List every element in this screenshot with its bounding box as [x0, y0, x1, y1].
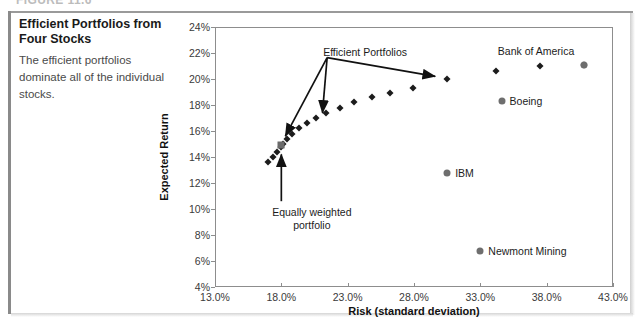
figure-frame-left [8, 11, 11, 314]
frontier-point [323, 109, 330, 116]
frontier-point [409, 85, 416, 92]
figure-container: FIGURE 11.6 Efficient Portfolios from Fo… [0, 0, 641, 323]
frontier-point [288, 130, 295, 137]
stock-label: Bank of America [498, 45, 574, 57]
y-tick-label: 24% [189, 21, 210, 33]
x-tick-label: 38.0% [532, 291, 562, 303]
x-axis-title: Risk (standard deviation) [215, 305, 613, 317]
stock-label: Boeing [510, 95, 543, 107]
figure-frame-top [8, 11, 633, 13]
frontier-point [351, 99, 358, 106]
x-tick-label: 28.0% [399, 291, 429, 303]
x-tick-label: 13.0% [200, 291, 230, 303]
frontier-point [387, 90, 394, 97]
y-tick-label: 8% [195, 229, 210, 241]
annotation-line-1: Equally weighted [272, 206, 351, 218]
stock-marker [498, 98, 505, 105]
caption-body: The efficient portfolios dominate all of… [19, 52, 181, 103]
x-tick-label: 33.0% [465, 291, 495, 303]
x-tick-mark [613, 283, 614, 287]
y-axis-title: Expected Return [158, 113, 170, 200]
figure-caption: Efficient Portfolios from Four Stocks Th… [19, 17, 181, 103]
frontier-point [265, 159, 272, 166]
frontier-point [303, 120, 310, 127]
y-tick-label: 10% [189, 203, 210, 215]
frontier-point [295, 125, 302, 132]
stock-label: Newmont Mining [488, 245, 566, 257]
x-tick-label: 23.0% [333, 291, 363, 303]
frontier-point [368, 94, 375, 101]
figure-frame-right-shadow [630, 13, 635, 315]
annotation-efficient-portfolios: Efficient Portfolios [323, 46, 407, 58]
y-tick-label: 18% [189, 99, 210, 111]
stock-marker [477, 247, 484, 254]
frontier-point [444, 75, 451, 82]
frontier-point [493, 68, 500, 75]
stock-marker [444, 169, 451, 176]
y-axis-ticks: 4%6%8%10%12%14%16%18%20%22%24% [178, 27, 210, 287]
y-tick-label: 6% [195, 255, 210, 267]
stock-label: IBM [455, 167, 474, 179]
plot-area: Bank of AmericaBoeingIBMNewmont MiningEf… [215, 27, 613, 287]
y-tick-label: 14% [189, 151, 210, 163]
x-tick-label: 43.0% [598, 291, 628, 303]
x-tick-label: 18.0% [266, 291, 296, 303]
figure-number: FIGURE 11.6 [16, 0, 92, 7]
annotation-equally-weighted-portfolio: Equally weightedportfolio [260, 206, 364, 232]
y-tick-label: 22% [189, 47, 210, 59]
caption-title: Efficient Portfolios from Four Stocks [19, 17, 181, 47]
y-tick-label: 16% [189, 125, 210, 137]
y-tick-mark [211, 287, 215, 288]
stock-marker [580, 61, 587, 68]
annotation-line-2: portfolio [293, 219, 330, 231]
y-tick-label: 12% [189, 177, 210, 189]
frontier-point [336, 104, 343, 111]
frontier-point [312, 114, 319, 121]
y-tick-label: 20% [189, 73, 210, 85]
frontier-point [536, 62, 543, 69]
equally-weighted-marker [278, 142, 285, 149]
